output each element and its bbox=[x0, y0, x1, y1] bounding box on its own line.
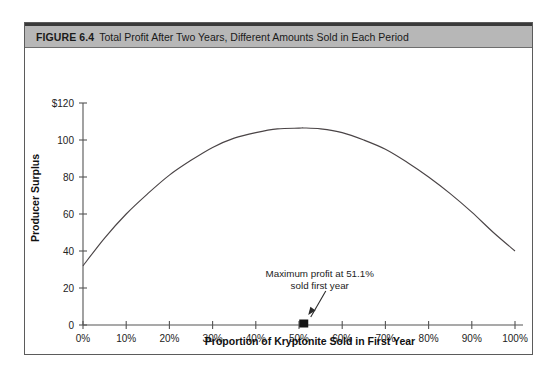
x-tick-label: 10% bbox=[116, 333, 136, 344]
x-axis-title: Proportion of Kryptonite Sold in First Y… bbox=[205, 335, 415, 347]
y-tick-label: $120 bbox=[52, 98, 75, 109]
y-tick-label: 100 bbox=[57, 135, 74, 146]
x-tick-label: 90% bbox=[462, 333, 482, 344]
figure-title: Total Profit After Two Years, Different … bbox=[99, 31, 409, 43]
x-tick-label: 80% bbox=[419, 333, 439, 344]
y-tick-label: 80 bbox=[63, 172, 75, 183]
figure-caption-band: FIGURE 6.4 Total Profit After Two Years,… bbox=[25, 23, 532, 48]
y-tick-label: 20 bbox=[63, 283, 75, 294]
y-axis-title: Producer Surplus bbox=[29, 154, 41, 242]
figure-frame: FIGURE 6.4 Total Profit After Two Years,… bbox=[24, 22, 533, 355]
y-axis: 020406080100$120 bbox=[52, 98, 87, 331]
x-tick-label: 100% bbox=[502, 333, 528, 344]
annotation-line-1: Maximum profit at 51.1% bbox=[266, 268, 375, 279]
y-tick-label: 40 bbox=[63, 246, 75, 257]
x-tick-label: 0% bbox=[76, 333, 91, 344]
x-tick-label: 20% bbox=[159, 333, 179, 344]
y-tick-label: 0 bbox=[68, 320, 74, 331]
figure-number-label: FIGURE 6.4 bbox=[36, 31, 94, 43]
annotation-line-2: sold first year bbox=[291, 280, 350, 291]
producer-surplus-line-chart: 020406080100$120 0%10%20%30%40%50%60%70%… bbox=[25, 48, 532, 354]
plot-region: 020406080100$120 0%10%20%30%40%50%60%70%… bbox=[25, 48, 532, 354]
annotation-arrow-line bbox=[311, 291, 326, 317]
maximum-profit-marker bbox=[299, 320, 308, 328]
maximum-profit-annotation: Maximum profit at 51.1%sold first year bbox=[266, 268, 375, 328]
annotation-arrow-head bbox=[308, 307, 315, 315]
y-tick-label: 60 bbox=[63, 209, 75, 220]
producer-surplus-curve bbox=[83, 128, 515, 266]
